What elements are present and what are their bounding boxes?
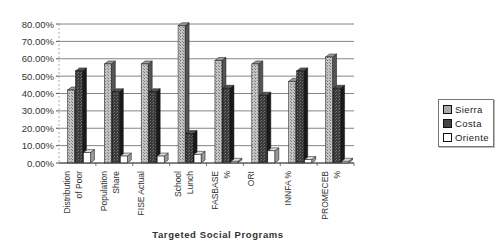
y-tick-label: 70.00% xyxy=(22,36,55,47)
x-tick-label: Population xyxy=(99,171,109,211)
legend-item-sierra: Sierra xyxy=(443,102,483,116)
y-tick-label: 20.00% xyxy=(22,123,55,134)
bar-oriente xyxy=(268,148,279,163)
legend-label: Costa xyxy=(455,118,482,129)
bar-oriente xyxy=(157,153,168,163)
x-tick-label: of Poor xyxy=(74,171,84,199)
x-axis: Distributionof PoorPopulationShareFISE A… xyxy=(59,163,354,220)
x-tick-label: PROMECEB xyxy=(320,171,330,220)
x-tick-label: Share xyxy=(111,171,121,194)
y-tick-label: 40.00% xyxy=(22,88,55,99)
bar-costa xyxy=(75,68,86,163)
x-tick-label: Distribution xyxy=(62,171,72,214)
legend-label: Oriente xyxy=(455,132,489,143)
x-tick-label: % xyxy=(332,171,342,179)
y-tick-label: 10.00% xyxy=(22,140,55,151)
y-axis: 0.00%10.00%20.00%30.00%40.00%50.00%60.00… xyxy=(22,19,59,169)
sierra-swatch-icon xyxy=(443,105,452,114)
legend-item-oriente: Oriente xyxy=(443,130,489,144)
gridlines xyxy=(59,24,354,163)
bar-chart: 0.00%10.00%20.00%30.00%40.00%50.00%60.00… xyxy=(0,0,502,245)
x-tick-label: INNFA % xyxy=(283,171,293,206)
bar-costa xyxy=(334,85,345,163)
bar-oriente xyxy=(83,150,94,163)
bar-costa xyxy=(297,68,308,163)
bar-oriente xyxy=(194,151,205,163)
x-axis-title: Targeted Social Programs xyxy=(152,229,283,240)
bar-costa xyxy=(223,85,234,163)
x-tick-label: School xyxy=(173,171,183,197)
y-tick-label: 0.00% xyxy=(27,158,54,169)
bar-oriente xyxy=(120,153,131,163)
y-tick-label: 80.00% xyxy=(22,19,55,30)
x-tick-label: ORI xyxy=(246,171,256,186)
costa-swatch-icon xyxy=(443,119,452,128)
bars xyxy=(67,23,352,163)
x-tick-label: FASBASE xyxy=(210,171,220,210)
legend-item-costa: Costa xyxy=(443,116,482,130)
bar-costa xyxy=(149,89,160,163)
y-tick-label: 30.00% xyxy=(22,105,55,116)
oriente-swatch-icon xyxy=(443,133,452,142)
x-tick-label: Lunch xyxy=(185,171,195,194)
legend-label: Sierra xyxy=(455,104,483,115)
legend: Sierra Costa Oriente xyxy=(438,99,494,147)
x-tick-label: FISE Actual xyxy=(136,171,146,216)
bar-costa xyxy=(112,89,123,163)
y-tick-label: 50.00% xyxy=(22,71,55,82)
y-tick-label: 60.00% xyxy=(22,53,55,64)
x-tick-label: % xyxy=(222,171,232,179)
